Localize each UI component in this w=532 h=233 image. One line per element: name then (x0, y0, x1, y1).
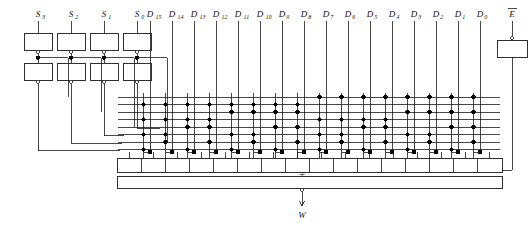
select-input-label-S1: S1 (102, 9, 111, 20)
data-input-label-D0: D0 (476, 9, 487, 20)
svg-text:D: D (212, 9, 220, 19)
and-dot-col2-row4 (185, 125, 189, 129)
inversion-bubble-stage2-S0 (135, 80, 139, 84)
svg-text:0: 0 (141, 14, 144, 20)
and-dot-col1-row3 (163, 117, 167, 121)
inversion-bubble-stage2-S3 (36, 80, 40, 84)
and-dot-col11-row3 (383, 117, 387, 121)
inverter-stage2-S1[interactable] (90, 63, 118, 80)
and-dot-col10-row4 (361, 125, 365, 129)
and-dot-col5-row5 (251, 132, 255, 136)
and-dot-col13-row0 (427, 95, 431, 99)
and-dot-col11-row0 (383, 95, 387, 99)
inverter-stage1-S2[interactable] (57, 33, 85, 50)
and-dot-col13-row5 (427, 132, 431, 136)
and-dot-col5-row6 (251, 140, 255, 144)
and-dot-col11-row6 (383, 140, 387, 144)
inverter-stage2-S0[interactable] (123, 63, 151, 80)
and-dot-col4-row5 (229, 132, 233, 136)
svg-text:14: 14 (178, 14, 184, 20)
and-dot-col6-row2 (273, 110, 277, 114)
svg-text:D: D (300, 9, 308, 19)
data-input-label-D6: D6 (344, 9, 355, 20)
svg-text:D: D (454, 9, 462, 19)
and-dot-col1-row6 (163, 140, 167, 144)
and-dot-col3-row4 (207, 125, 211, 129)
and-dot-col15-row6 (471, 140, 475, 144)
inverter-stage1-S3[interactable] (24, 33, 52, 50)
and-dot-col9-row0 (339, 95, 343, 99)
data-input-label-D8: D8 (300, 9, 311, 20)
svg-text:3: 3 (41, 14, 45, 20)
and-dot-col12-row5 (405, 132, 409, 136)
and-dot-col5-row2 (251, 110, 255, 114)
and-dot-col12-row0 (405, 95, 409, 99)
and-dot-col3-row1 (207, 102, 211, 106)
inverter-stage1-S0[interactable] (123, 33, 151, 50)
and-dot-col0-row3 (141, 117, 145, 121)
and-dot-col12-row2 (405, 110, 409, 114)
and-dot-col8-row5 (317, 132, 321, 136)
and-dot-col13-row6 (427, 140, 431, 144)
and-dot-col6-row1 (273, 102, 277, 106)
data-input-label-D3: D3 (410, 9, 421, 20)
inversion-bubble-stage1-S2 (69, 50, 73, 54)
inversion-bubble-stage1-S1 (102, 50, 106, 54)
true-branch-S0 (137, 84, 160, 128)
output-label-W: W (298, 210, 307, 220)
svg-text:S: S (69, 9, 74, 19)
data-input-label-D15: D15 (146, 9, 162, 20)
svg-text:5: 5 (374, 14, 377, 20)
and-dot-col12-row7 (405, 147, 409, 151)
svg-text:3: 3 (417, 14, 421, 20)
and-dot-col13-row2 (427, 110, 431, 114)
inverter-stage1-S1[interactable] (90, 33, 118, 50)
svg-text:D: D (256, 9, 264, 19)
and-dot-col5-row1 (251, 102, 255, 106)
and-dot-col10-row0 (361, 95, 365, 99)
inverter-enable[interactable] (497, 40, 527, 57)
and-dot-col1-row5 (163, 132, 167, 136)
inverter-stage2-S2[interactable] (57, 63, 85, 80)
and-dot-col7-row1 (295, 102, 299, 106)
and-dot-col7-row2 (295, 110, 299, 114)
data-input-label-D14: D14 (168, 9, 184, 20)
select-input-label-S2: S2 (69, 9, 78, 20)
svg-text:D: D (366, 9, 374, 19)
inverter-stage2-S3[interactable] (24, 63, 52, 80)
and-dot-col4-row1 (229, 102, 233, 106)
and-dot-col14-row7 (449, 147, 453, 151)
and-dot-col4-row2 (229, 110, 233, 114)
and-dot-col2-row7 (185, 147, 189, 151)
and-dot-col9-row6 (339, 140, 343, 144)
svg-text:1: 1 (108, 14, 111, 20)
and-dot-col14-row4 (449, 125, 453, 129)
svg-text:7: 7 (330, 14, 334, 20)
inversion-bubble-enable (510, 36, 514, 40)
svg-text:D: D (432, 9, 440, 19)
and-dot-col10-row3 (361, 117, 365, 121)
inversion-bubble-stage1-S0 (135, 50, 139, 54)
svg-text:D: D (190, 9, 198, 19)
svg-text:2: 2 (440, 14, 443, 20)
inversion-bubble-stage1-S3 (36, 50, 40, 54)
select-input-label-S0: S0 (135, 9, 144, 20)
svg-text:10: 10 (266, 14, 272, 20)
data-input-label-D2: D2 (432, 9, 443, 20)
svg-text:D: D (234, 9, 242, 19)
svg-text:15: 15 (156, 14, 162, 20)
and-dot-col9-row5 (339, 132, 343, 136)
svg-text:D: D (322, 9, 330, 19)
svg-text:1: 1 (462, 14, 465, 20)
and-dot-col8-row3 (317, 117, 321, 121)
data-input-label-D1: D1 (454, 9, 465, 20)
svg-text:6: 6 (352, 14, 355, 20)
and-dot-col15-row0 (471, 95, 475, 99)
svg-text:D: D (278, 9, 286, 19)
svg-text:D: D (146, 9, 154, 19)
and-dot-col3-row3 (207, 117, 211, 121)
and-dot-col6-row7 (273, 147, 277, 151)
and-dot-col4-row7 (229, 147, 233, 151)
data-input-label-D10: D10 (256, 9, 272, 20)
and-dot-col3-row6 (207, 140, 211, 144)
